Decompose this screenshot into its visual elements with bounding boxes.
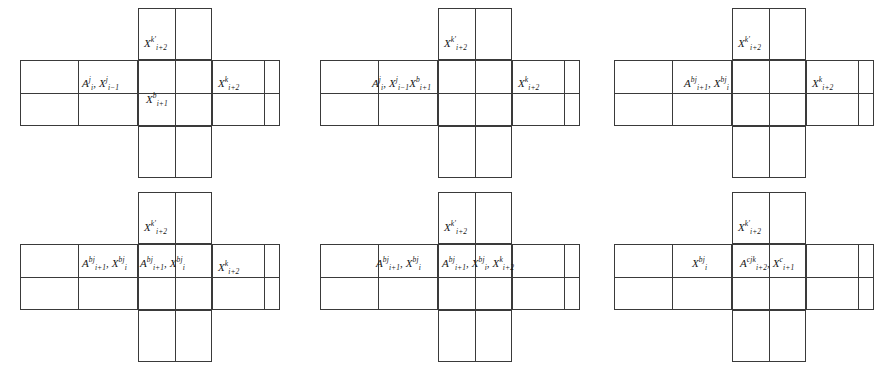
- label-top-arm: Xk′i+2: [144, 222, 167, 233]
- horizontal-mid-rule: [614, 277, 874, 278]
- cross-diagram-panel-1: Xk′i+2 Aji, Xji−1 Xbi+1 Xki+2: [20, 8, 280, 178]
- cross-diagram-panel-6: Xk′i+2 Xbji Acjki+2, Xci+1: [614, 192, 874, 362]
- figure-canvas: Xk′i+2 Aji, Xji−1 Xbi+1 Xki+2 Xk′i+2 Aji…: [0, 0, 888, 372]
- vertical-mid-rule: [175, 192, 176, 362]
- label-top-arm: Xk′i+2: [144, 38, 167, 49]
- horizontal-mid-rule: [320, 277, 580, 278]
- vertical-mid-rule: [475, 8, 476, 178]
- label-left-inner: Abji+1, Xbji: [82, 258, 127, 269]
- cross-diagram-panel-2: Xk′i+2 Aji, Xji−1Xbi+1 Xki+2: [320, 8, 580, 178]
- horizontal-mid-rule: [614, 93, 874, 94]
- label-center-span: Aji, Xji−1Xbi+1: [372, 78, 431, 89]
- label-center: Xbi+1: [146, 94, 168, 105]
- label-left-inner: Abji+1, Xbji: [376, 258, 421, 269]
- label-right-arm: Xki+2: [812, 78, 833, 89]
- label-top-arm: Xk′i+2: [444, 38, 467, 49]
- vertical-mid-rule: [475, 192, 476, 362]
- horizontal-mid-rule: [20, 277, 280, 278]
- label-right-arm: Xki+2: [218, 262, 239, 273]
- cross-diagram-panel-5: Xk′i+2 Abji+1, Xbji Abji+1, Xbji, Xki+2: [320, 192, 580, 362]
- label-left-inner: Xbji: [692, 258, 707, 269]
- label-top-arm: Xk′i+2: [444, 222, 467, 233]
- label-center: Acjki+2, Xci+1: [740, 258, 794, 269]
- vertical-mid-rule: [769, 192, 770, 362]
- label-center: Abji+1, Xbji: [140, 258, 185, 269]
- cross-diagram-panel-3: Xk′i+2 Abji+1, Xbji Xki+2: [614, 8, 874, 178]
- label-center-span: Abji+1, Xbji: [684, 78, 729, 89]
- label-top-arm: Xk′i+2: [738, 38, 761, 49]
- vertical-mid-rule: [175, 8, 176, 178]
- vertical-mid-rule: [769, 8, 770, 178]
- label-center: Abji+1, Xbji, Xki+2: [442, 258, 514, 269]
- label-right-arm: Xki+2: [518, 78, 539, 89]
- cross-diagram-panel-4: Xk′i+2 Abji+1, Xbji Abji+1, Xbji Xki+2: [20, 192, 280, 362]
- label-right-arm: Xki+2: [218, 78, 239, 89]
- label-left-inner: Aji, Xji−1: [82, 78, 119, 89]
- horizontal-mid-rule: [320, 93, 580, 94]
- label-top-arm: Xk′i+2: [738, 222, 761, 233]
